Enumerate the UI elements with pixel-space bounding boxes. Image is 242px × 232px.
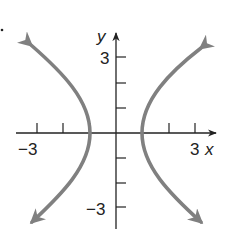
y-tick-label-3: 3 <box>100 49 109 68</box>
hyperbola-right-branch <box>142 48 201 222</box>
stray-dot <box>1 29 4 32</box>
y-axis-label: y <box>96 27 107 46</box>
y-ticks <box>116 57 126 207</box>
x-tick-label-neg3: −3 <box>18 140 37 159</box>
x-tick-label-3: 3 <box>190 140 199 159</box>
x-axis-label: x <box>204 140 214 159</box>
y-tick-label-neg3: −3 <box>86 200 105 219</box>
hyperbola-graph: y 3 −3 −3 3 x <box>0 0 242 232</box>
